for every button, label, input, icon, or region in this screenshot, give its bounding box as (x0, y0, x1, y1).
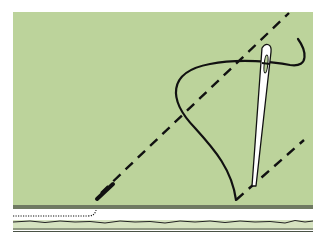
fabric-panel (13, 12, 313, 207)
sewing-diagram (0, 0, 328, 240)
underlayer-stitches (13, 210, 96, 216)
thread-through-eye (262, 63, 270, 64)
fold-edge (13, 205, 313, 209)
